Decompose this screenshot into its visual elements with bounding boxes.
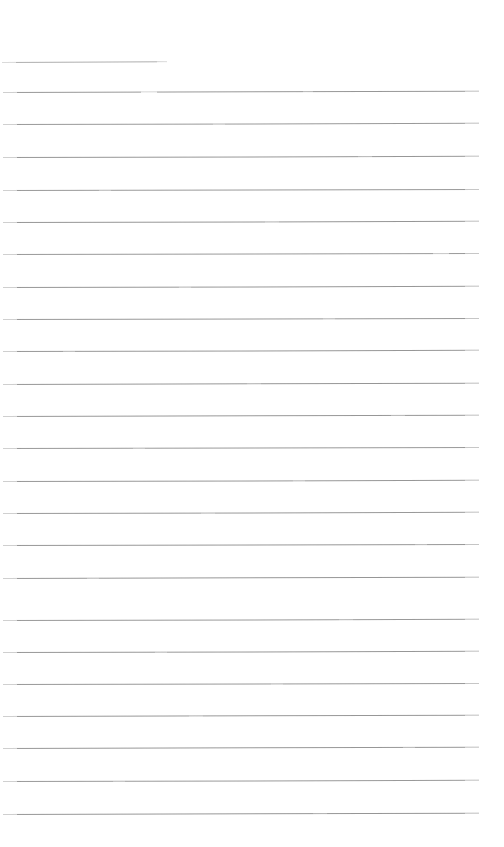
scan-dropout	[265, 221, 279, 223]
scan-dropout	[189, 715, 203, 717]
rule-line	[3, 512, 479, 514]
rule-line	[3, 318, 479, 320]
scan-dropout	[87, 578, 99, 580]
rule-line	[3, 156, 479, 158]
scan-dropout	[213, 123, 225, 125]
rule-line	[3, 415, 479, 417]
heading-rule-line	[2, 61, 167, 63]
scan-dropout	[358, 156, 372, 158]
rule-line	[3, 221, 479, 223]
scan-dropout	[323, 318, 335, 320]
scan-dropout	[201, 512, 215, 514]
scan-dropout	[313, 813, 327, 815]
rule-line	[3, 577, 479, 579]
rule-line	[3, 286, 479, 288]
scan-dropout	[303, 91, 313, 93]
rule-line	[3, 123, 479, 125]
rule-line	[3, 683, 479, 685]
rule-line	[3, 747, 479, 749]
rule-line	[3, 780, 479, 782]
scan-dropout	[155, 652, 167, 654]
scan-dropout	[179, 287, 191, 289]
rule-line	[3, 350, 479, 352]
scan-dropout	[63, 351, 75, 353]
scan-dropout	[141, 92, 157, 94]
scan-dropout	[391, 415, 405, 417]
rule-line	[3, 91, 479, 93]
scan-dropout	[99, 190, 111, 192]
rule-line	[3, 189, 479, 191]
rule-line	[3, 480, 479, 482]
rule-line	[3, 651, 479, 653]
scan-dropout	[271, 683, 283, 685]
rule-line	[3, 715, 479, 717]
rule-line	[3, 447, 479, 449]
scan-dropout	[113, 781, 125, 783]
rule-line	[3, 383, 479, 385]
scan-dropout	[415, 544, 427, 546]
rule-line	[3, 544, 479, 546]
scan-dropout	[339, 619, 353, 621]
rule-line	[3, 813, 479, 815]
scanned-page	[0, 0, 504, 847]
scan-dropout	[133, 448, 145, 450]
rule-line	[3, 619, 479, 621]
scan-dropout	[403, 747, 415, 749]
scan-dropout	[433, 253, 449, 255]
scan-dropout	[247, 383, 261, 385]
scan-dropout	[293, 480, 305, 482]
rule-line	[3, 253, 479, 255]
